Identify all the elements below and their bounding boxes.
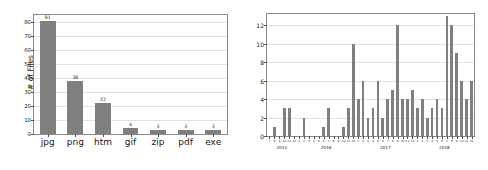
bar [357,99,360,136]
x-tick-mark [186,134,187,137]
bar [460,81,463,136]
x-tick-mark [279,136,280,139]
bar [386,99,389,136]
x-tick-label: 3 [308,139,310,143]
x-tick-label: 2 [303,139,305,143]
bar [426,118,429,136]
y-tick-label: 30 [24,89,31,95]
bar [450,25,453,136]
x-tick-label: 9 [278,139,280,143]
x-tick-mark [407,136,408,139]
y-tick-label: 60 [24,47,31,53]
x-tick-mark [442,136,443,139]
bar [40,21,56,134]
y-tick-mark [31,92,34,93]
x-tick-mark [314,136,315,139]
x-tick-label: 7 [328,139,330,143]
x-tick-label: 4 [431,139,433,143]
monthly-transaction-bar-chart: # of Txs 0246810127891011121234567891011… [244,0,488,170]
bar [377,81,380,136]
x-tick-label: 10 [282,139,286,143]
x-tick-mark [358,136,359,139]
y-tick-mark [31,78,34,79]
y-tick-label: 20 [24,103,31,109]
x-tick-label: png [67,137,84,147]
x-tick-label: 11 [346,139,350,143]
plot-area-left: 8138224333 [34,15,227,134]
x-axis-year-group-label: 2017 [380,145,391,150]
x-tick-mark [319,136,320,139]
x-tick-label: 10 [460,139,464,143]
x-tick-label: zip [152,137,165,147]
x-tick-label: 2 [421,139,423,143]
bar [95,103,111,134]
x-tick-mark [324,136,325,139]
x-tick-label: htm [94,137,112,147]
y-tick-label: 12 [256,22,264,29]
bar-value-label: 4 [129,122,132,127]
bar [283,108,286,136]
x-tick-mark [334,136,335,139]
grid-line [267,81,474,82]
bar [273,127,276,136]
bar [446,16,449,136]
x-tick-label: 10 [401,139,405,143]
x-tick-label: 10 [342,139,346,143]
y-tick-mark [264,81,267,82]
x-tick-label: 11 [287,139,291,143]
x-tick-label: 5 [436,139,438,143]
bar [416,108,419,136]
y-tick-mark [31,120,34,121]
bar [367,118,370,136]
grid-line [34,92,227,93]
x-tick-mark [432,136,433,139]
x-tick-label: 4 [313,139,315,143]
x-tick-mark [338,136,339,139]
x-tick-mark [378,136,379,139]
x-tick-mark [343,136,344,139]
bar [431,108,434,136]
x-tick-mark [412,136,413,139]
file-type-bar-chart: # of Files 8138224333 01020304050607080j… [0,0,244,170]
x-tick-mark [213,134,214,137]
grid-line [34,120,227,121]
x-tick-label: exe [205,137,221,147]
bar-value-label: 22 [100,97,106,102]
bar [327,108,330,136]
x-tick-label: 8 [273,139,275,143]
x-tick-mark [467,136,468,139]
x-tick-mark [284,136,285,139]
y-tick-label: 80 [24,19,31,25]
grid-line [267,99,474,100]
x-tick-mark [269,136,270,139]
x-tick-mark [309,136,310,139]
y-tick-mark [31,22,34,23]
bar [303,118,306,136]
x-tick-mark [388,136,389,139]
x-tick-mark [472,136,473,139]
x-tick-mark [294,136,295,139]
x-tick-mark [427,136,428,139]
x-tick-label: 9 [338,139,340,143]
bar [406,99,409,136]
bar [381,118,384,136]
x-tick-label: 6 [441,139,443,143]
bar [322,127,325,136]
x-tick-mark [373,136,374,139]
grid-line [34,36,227,37]
x-tick-mark [462,136,463,139]
x-tick-label: 9 [397,139,399,143]
bar [362,81,365,136]
x-tick-mark [329,136,330,139]
x-tick-label: 12 [470,139,474,143]
grid-line [267,62,474,63]
x-tick-label: 8 [392,139,394,143]
x-tick-mark [383,136,384,139]
x-tick-mark [103,134,104,137]
x-tick-mark [353,136,354,139]
bar [455,53,458,136]
x-tick-label: jpg [41,137,55,147]
x-tick-label: 5 [377,139,379,143]
x-tick-label: 5 [318,139,320,143]
x-tick-label: 3 [426,139,428,143]
